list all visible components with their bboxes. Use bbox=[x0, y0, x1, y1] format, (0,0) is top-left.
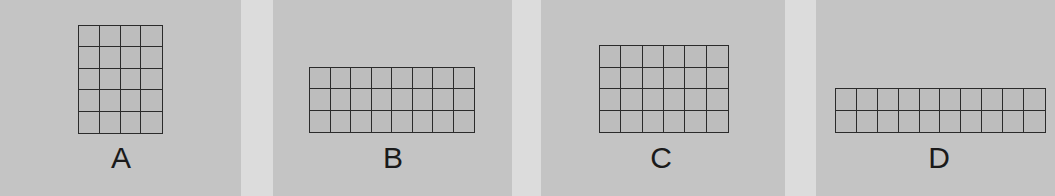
grid-cell bbox=[836, 111, 857, 133]
grid-cell bbox=[433, 89, 454, 110]
grid-cell bbox=[331, 68, 352, 89]
grid-cell bbox=[141, 69, 162, 90]
grid-cell bbox=[121, 47, 142, 68]
grid-cell bbox=[433, 111, 454, 132]
grid-cell bbox=[600, 111, 621, 133]
grid-cell bbox=[331, 89, 352, 110]
grid-cell bbox=[433, 68, 454, 89]
grid-cell bbox=[961, 111, 982, 133]
grid-cell bbox=[372, 68, 393, 89]
grid-cell bbox=[79, 90, 100, 111]
grid-cell bbox=[982, 89, 1003, 111]
panel-d: D bbox=[816, 0, 1055, 196]
label-b: B bbox=[383, 143, 403, 173]
grid-cell bbox=[664, 68, 685, 90]
label-a: A bbox=[111, 143, 131, 173]
grid-cell bbox=[664, 46, 685, 68]
grid-cell bbox=[707, 89, 728, 111]
grid-cell bbox=[454, 111, 475, 132]
grid-d bbox=[835, 88, 1046, 133]
grid-cell bbox=[621, 68, 642, 90]
label-d: D bbox=[928, 143, 950, 173]
grid-cell bbox=[899, 111, 920, 133]
grid-cell bbox=[141, 112, 162, 133]
panel-c: C bbox=[541, 0, 785, 196]
grid-cell bbox=[685, 46, 706, 68]
grid-a bbox=[78, 25, 163, 134]
grid-cell bbox=[392, 111, 413, 132]
grid-cell bbox=[621, 89, 642, 111]
grid-cell bbox=[392, 89, 413, 110]
grid-cell bbox=[79, 69, 100, 90]
grid-cell bbox=[100, 112, 121, 133]
grid-cell bbox=[899, 89, 920, 111]
grid-cell bbox=[121, 26, 142, 47]
grid-cell bbox=[940, 111, 961, 133]
grid-cell bbox=[878, 89, 899, 111]
grid-cell bbox=[310, 111, 331, 132]
label-c: C bbox=[650, 143, 672, 173]
grid-cell bbox=[643, 111, 664, 133]
grid-cell bbox=[413, 111, 434, 132]
grid-cell bbox=[836, 89, 857, 111]
grid-cell bbox=[79, 47, 100, 68]
grid-cell bbox=[940, 89, 961, 111]
grid-cell bbox=[643, 89, 664, 111]
grid-cell bbox=[141, 47, 162, 68]
grid-cell bbox=[331, 111, 352, 132]
grid-cell bbox=[1024, 89, 1045, 111]
panel-b: B bbox=[273, 0, 512, 196]
grid-cell bbox=[920, 111, 941, 133]
grid-cell bbox=[621, 111, 642, 133]
grid-cell bbox=[621, 46, 642, 68]
grid-cell bbox=[141, 26, 162, 47]
grid-cell bbox=[707, 68, 728, 90]
grid-cell bbox=[310, 89, 331, 110]
grid-cell bbox=[372, 89, 393, 110]
grid-cell bbox=[961, 89, 982, 111]
grid-cell bbox=[878, 111, 899, 133]
grid-cell bbox=[351, 89, 372, 110]
grid-cell bbox=[857, 89, 878, 111]
grid-cell bbox=[982, 111, 1003, 133]
grid-cell bbox=[121, 90, 142, 111]
grid-cell bbox=[643, 46, 664, 68]
grid-cell bbox=[664, 111, 685, 133]
grid-cell bbox=[454, 89, 475, 110]
grid-cell bbox=[100, 47, 121, 68]
grid-cell bbox=[351, 68, 372, 89]
grid-b bbox=[309, 67, 475, 133]
grid-cell bbox=[664, 89, 685, 111]
grid-cell bbox=[1003, 89, 1024, 111]
grid-cell bbox=[121, 112, 142, 133]
grid-cell bbox=[600, 46, 621, 68]
grid-cell bbox=[707, 46, 728, 68]
grid-cell bbox=[685, 68, 706, 90]
grid-cell bbox=[600, 89, 621, 111]
grid-cell bbox=[413, 68, 434, 89]
grid-cell bbox=[372, 111, 393, 132]
grid-cell bbox=[707, 111, 728, 133]
grid-cell bbox=[100, 26, 121, 47]
grid-cell bbox=[100, 90, 121, 111]
grid-cell bbox=[600, 68, 621, 90]
grid-cell bbox=[454, 68, 475, 89]
grid-cell bbox=[79, 26, 100, 47]
grid-cell bbox=[392, 68, 413, 89]
grid-cell bbox=[685, 111, 706, 133]
grid-c bbox=[599, 45, 729, 133]
grid-cell bbox=[79, 112, 100, 133]
grid-cell bbox=[121, 69, 142, 90]
grid-cell bbox=[1003, 111, 1024, 133]
grid-cell bbox=[100, 69, 121, 90]
grid-cell bbox=[857, 111, 878, 133]
grid-cell bbox=[920, 89, 941, 111]
grid-cell bbox=[685, 89, 706, 111]
grid-cell bbox=[413, 89, 434, 110]
grid-cell bbox=[1024, 111, 1045, 133]
panel-a: A bbox=[0, 0, 241, 196]
grid-cell bbox=[643, 68, 664, 90]
grid-cell bbox=[141, 90, 162, 111]
grid-cell bbox=[351, 111, 372, 132]
grid-cell bbox=[310, 68, 331, 89]
